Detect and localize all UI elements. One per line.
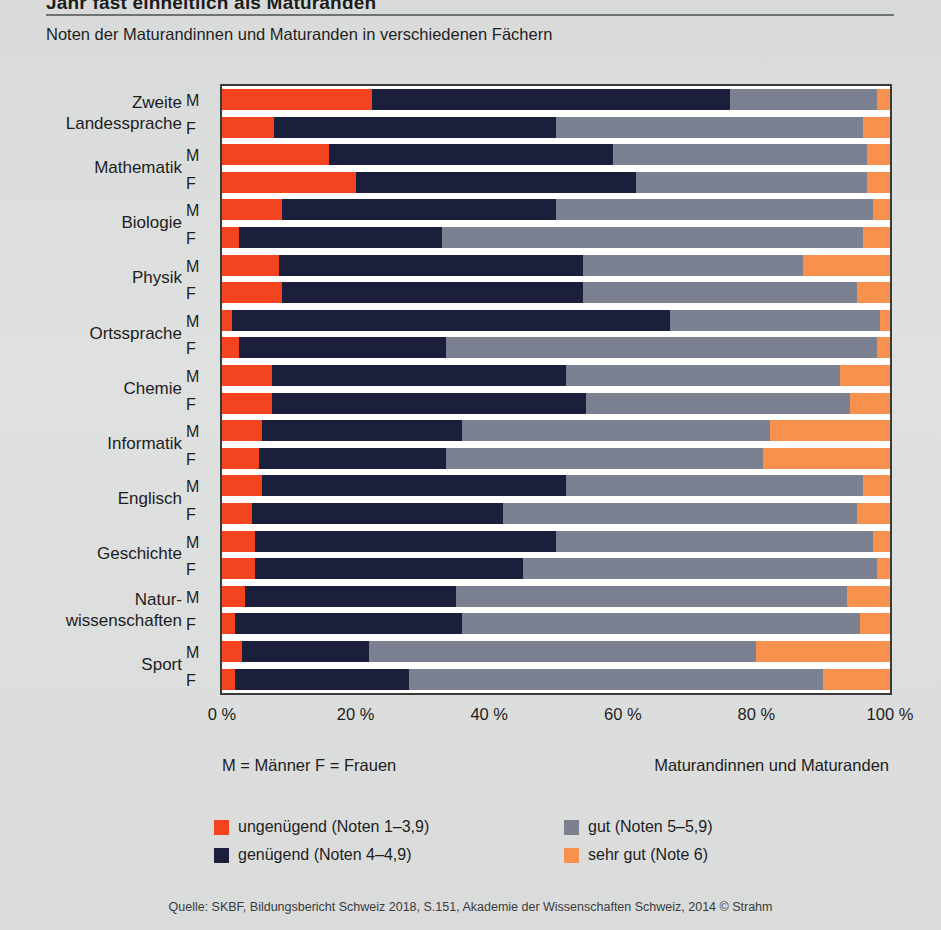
bar-row xyxy=(222,89,890,110)
bar-segment-3 xyxy=(873,199,890,220)
bar-row xyxy=(222,503,890,524)
bar-segment-0 xyxy=(222,669,235,690)
bar-segment-2 xyxy=(566,475,863,496)
bar-row xyxy=(222,613,890,634)
subject-label: Ortssprache xyxy=(89,324,182,344)
bar-segment-2 xyxy=(583,255,803,276)
x-tick-label: 80 % xyxy=(738,705,776,724)
subject-label: Sport xyxy=(141,655,182,675)
bar-segment-1 xyxy=(282,199,556,220)
sex-label-f: F xyxy=(186,614,208,635)
bar-segment-0 xyxy=(222,586,245,607)
legend-label: sehr gut (Note 6) xyxy=(588,846,708,864)
legend-item: genügend (Noten 4–4,9) xyxy=(214,846,411,864)
bar-segment-2 xyxy=(730,89,877,110)
bar-segment-0 xyxy=(222,531,255,552)
bar-segment-2 xyxy=(613,144,867,165)
legend-label: gut (Noten 5–5,9) xyxy=(588,818,713,836)
subject-label-line: Englisch xyxy=(118,489,182,509)
bar-row xyxy=(222,558,890,579)
bar-segment-3 xyxy=(860,613,890,634)
bar-segment-3 xyxy=(756,641,890,662)
subject-label: ZweiteLandessprache xyxy=(66,92,182,134)
subject-label-line: Biologie xyxy=(122,213,183,233)
sex-label-m: M xyxy=(186,256,208,277)
bar-segment-3 xyxy=(857,282,890,303)
bar-segment-2 xyxy=(369,641,756,662)
bar-segment-2 xyxy=(670,310,880,331)
bar-segment-0 xyxy=(222,117,274,138)
sex-label-m: M xyxy=(186,366,208,387)
subject-label-line: Geschichte xyxy=(97,544,182,564)
bar-segment-1 xyxy=(235,613,462,634)
sex-label-f: F xyxy=(186,670,208,691)
bar-segment-0 xyxy=(222,420,262,441)
bar-segment-1 xyxy=(274,117,556,138)
bar-row xyxy=(222,255,890,276)
bar-segment-3 xyxy=(857,503,890,524)
bar-segment-2 xyxy=(556,199,873,220)
bar-segment-1 xyxy=(242,641,369,662)
subject-label: Chemie xyxy=(123,379,182,399)
bar-row xyxy=(222,337,890,358)
sex-label-m: M xyxy=(186,145,208,166)
bar-segment-0 xyxy=(222,448,259,469)
bar-segment-1 xyxy=(272,365,566,386)
source-note: Quelle: SKBF, Bildungsbericht Schweiz 20… xyxy=(0,900,941,914)
sex-label-m: M xyxy=(186,311,208,332)
bar-row xyxy=(222,172,890,193)
bar-segment-3 xyxy=(840,365,890,386)
sex-label-f: F xyxy=(186,338,208,359)
sex-label-f: F xyxy=(186,504,208,525)
bar-segment-2 xyxy=(409,669,823,690)
bar-segment-1 xyxy=(245,586,455,607)
x-tick-label: 20 % xyxy=(337,705,375,724)
bar-segment-1 xyxy=(255,531,556,552)
legend-swatch xyxy=(564,820,579,835)
bar-segment-2 xyxy=(442,227,863,248)
bar-segment-2 xyxy=(583,282,857,303)
legend-swatch xyxy=(214,820,229,835)
bar-segment-2 xyxy=(523,558,877,579)
sex-label-f: F xyxy=(186,173,208,194)
bar-segment-1 xyxy=(372,89,729,110)
bar-segment-1 xyxy=(262,475,566,496)
bar-segment-0 xyxy=(222,558,255,579)
bar-segment-2 xyxy=(556,117,863,138)
x-axis-ticks: 0 %20 %40 %60 %80 %100 % xyxy=(0,705,941,731)
bar-row xyxy=(222,475,890,496)
bar-segment-3 xyxy=(873,531,890,552)
legend-item: ungenügend (Noten 1–3,9) xyxy=(214,818,429,836)
bar-segment-1 xyxy=(239,227,443,248)
bar-segment-3 xyxy=(880,310,890,331)
legend-swatch xyxy=(214,848,229,863)
bar-row xyxy=(222,669,890,690)
bar-segment-3 xyxy=(850,393,890,414)
bar-segment-2 xyxy=(586,393,850,414)
bar-row xyxy=(222,199,890,220)
subject-label: Informatik xyxy=(107,434,182,454)
bar-segment-0 xyxy=(222,199,282,220)
subject-label: Geschichte xyxy=(97,544,182,564)
bar-segment-0 xyxy=(222,365,272,386)
subject-label-line: Natur- xyxy=(66,589,182,610)
bar-segment-1 xyxy=(235,669,409,690)
chart-subtitle: Noten der Maturandinnen und Maturanden i… xyxy=(46,25,906,44)
bar-segment-2 xyxy=(636,172,866,193)
bar-row xyxy=(222,227,890,248)
x-tick-label: 100 % xyxy=(867,705,914,724)
subject-label-line: Sport xyxy=(141,655,182,675)
sex-label-m: M xyxy=(186,200,208,221)
subject-label-line: Informatik xyxy=(107,434,182,454)
bar-segment-3 xyxy=(877,89,890,110)
axis-caption: Maturandinnen und Maturanden xyxy=(654,756,889,775)
subject-label: Physik xyxy=(132,268,182,288)
bar-segment-2 xyxy=(446,337,877,358)
bar-segment-2 xyxy=(462,420,769,441)
bar-row xyxy=(222,531,890,552)
bar-segment-1 xyxy=(329,144,613,165)
bar-segment-3 xyxy=(803,255,890,276)
bar-segment-3 xyxy=(847,586,890,607)
bar-segment-0 xyxy=(222,641,242,662)
subject-label-line: wissenschaften xyxy=(66,610,182,631)
